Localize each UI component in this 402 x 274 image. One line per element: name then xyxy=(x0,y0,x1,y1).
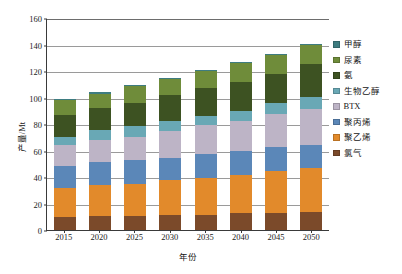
y-tick-label: 160 xyxy=(29,15,42,24)
x-axis-ticks: 20152020202520302035204020452050 xyxy=(46,233,329,247)
bar-segment[interactable] xyxy=(89,216,111,230)
y-tick-label: 120 xyxy=(29,68,42,77)
bar-segment[interactable] xyxy=(300,109,322,144)
legend-item[interactable]: 氨 xyxy=(333,71,380,80)
bar-segment[interactable] xyxy=(230,151,252,175)
x-tick: 2030 xyxy=(159,233,181,247)
legend-swatch xyxy=(333,57,340,64)
legend-label: 尿素 xyxy=(344,56,362,65)
bar-segment[interactable] xyxy=(54,217,76,230)
x-tick-mark xyxy=(241,230,242,234)
bar-segment[interactable] xyxy=(124,160,146,183)
bar-segment[interactable] xyxy=(89,185,111,216)
x-tick: 2040 xyxy=(230,233,252,247)
bar-segment[interactable] xyxy=(124,86,146,103)
bar-segment[interactable] xyxy=(300,64,322,96)
bar-segment[interactable] xyxy=(54,166,76,189)
legend-item[interactable]: 聚乙烯 xyxy=(333,133,380,142)
bar-segment[interactable] xyxy=(54,145,76,166)
legend-swatch xyxy=(333,88,340,95)
bar-segment[interactable] xyxy=(265,114,287,147)
bar-segment[interactable] xyxy=(265,213,287,230)
y-tick-mark xyxy=(44,204,48,205)
legend-item[interactable]: BTX xyxy=(333,102,380,111)
bar-column[interactable] xyxy=(230,19,252,230)
bar-segment[interactable] xyxy=(265,147,287,171)
bar-segment[interactable] xyxy=(89,94,111,109)
bar-segment[interactable] xyxy=(230,82,252,111)
y-tick-mark xyxy=(44,151,48,152)
legend-label: 甲醇 xyxy=(344,40,362,49)
bar-segment[interactable] xyxy=(89,108,111,130)
bar-segment[interactable] xyxy=(159,158,181,181)
bar-segment[interactable] xyxy=(230,111,252,121)
y-tick-mark xyxy=(44,72,48,73)
y-tick-label: 20 xyxy=(34,200,43,209)
bar-segment[interactable] xyxy=(159,180,181,214)
legend-item[interactable]: 氯气 xyxy=(333,149,380,158)
bar-segment[interactable] xyxy=(230,63,252,82)
x-tick-mark xyxy=(311,230,312,234)
bar-segment[interactable] xyxy=(89,130,111,140)
bar-segment[interactable] xyxy=(265,74,287,103)
bar-segment[interactable] xyxy=(159,215,181,230)
bar-segment[interactable] xyxy=(124,216,146,230)
bar-segment[interactable] xyxy=(265,171,287,213)
bar-segment[interactable] xyxy=(195,88,217,116)
bar-segment[interactable] xyxy=(230,213,252,230)
plot-area: 020406080100120140160 xyxy=(46,19,329,231)
y-tick-mark xyxy=(44,178,48,179)
bar-column[interactable] xyxy=(265,19,287,230)
legend-item[interactable]: 聚丙烯 xyxy=(333,118,380,127)
bar-column[interactable] xyxy=(54,19,76,230)
x-axis-label: 年份 xyxy=(46,250,329,262)
bar-segment[interactable] xyxy=(124,184,146,216)
x-tick: 2020 xyxy=(88,233,110,247)
bar-column[interactable] xyxy=(300,19,322,230)
legend-swatch xyxy=(333,119,340,126)
bar-segment[interactable] xyxy=(265,55,287,74)
bar-segment[interactable] xyxy=(54,188,76,216)
bar-segment[interactable] xyxy=(195,178,217,214)
legend-label: 生物乙醇 xyxy=(344,87,380,96)
bar-segment[interactable] xyxy=(300,45,322,64)
bar-column[interactable] xyxy=(195,19,217,230)
y-tick-label: 0 xyxy=(38,227,42,236)
bar-segment[interactable] xyxy=(89,162,111,185)
bar-segment[interactable] xyxy=(195,215,217,230)
bar-segment[interactable] xyxy=(89,140,111,163)
bar-segment[interactable] xyxy=(195,71,217,88)
chart-figure: 产量/Mt 020406080100120140160 201520202025… xyxy=(0,0,402,274)
bar-column[interactable] xyxy=(124,19,146,230)
bar-segment[interactable] xyxy=(195,154,217,178)
bar-segment[interactable] xyxy=(124,103,146,126)
bar-segment[interactable] xyxy=(54,115,76,137)
bar-segment[interactable] xyxy=(300,97,322,110)
bar-column[interactable] xyxy=(159,19,181,230)
bar-segment[interactable] xyxy=(195,125,217,154)
bar-segment[interactable] xyxy=(300,212,322,230)
bar-segment[interactable] xyxy=(230,175,252,213)
x-tick-label: 2030 xyxy=(159,233,181,242)
bar-segment[interactable] xyxy=(124,126,146,137)
bar-segment[interactable] xyxy=(195,116,217,125)
bar-segment[interactable] xyxy=(230,121,252,151)
bar-segment[interactable] xyxy=(159,95,181,121)
bar-segment[interactable] xyxy=(159,79,181,95)
legend-swatch xyxy=(333,72,340,79)
legend-item[interactable]: 尿素 xyxy=(333,56,380,65)
legend-item[interactable]: 甲醇 xyxy=(333,40,380,49)
x-tick-label: 2040 xyxy=(230,233,252,242)
bar-segment[interactable] xyxy=(124,137,146,161)
bar-segment[interactable] xyxy=(159,121,181,131)
bar-segment[interactable] xyxy=(159,131,181,158)
bar-segment[interactable] xyxy=(300,168,322,212)
bar-column[interactable] xyxy=(89,19,111,230)
y-tick-label: 60 xyxy=(34,147,43,156)
x-tick-mark xyxy=(170,230,171,234)
bar-segment[interactable] xyxy=(54,100,76,115)
legend-item[interactable]: 生物乙醇 xyxy=(333,87,380,96)
bar-segment[interactable] xyxy=(54,137,76,146)
bar-segment[interactable] xyxy=(300,145,322,168)
bar-segment[interactable] xyxy=(265,103,287,114)
